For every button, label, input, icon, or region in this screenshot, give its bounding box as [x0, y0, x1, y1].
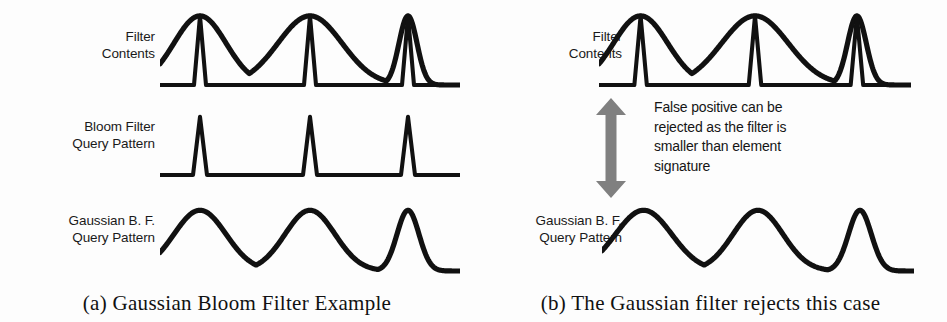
plot-filter-contents-b — [599, 8, 911, 90]
row-label-bloom-query-a: Bloom Filter Query Pattern — [20, 118, 155, 152]
figure-gaussian-bloom-filter: Filter Contents Bloom Filter Query Patte… — [0, 0, 947, 322]
panel-a: Filter Contents Bloom Filter Query Patte… — [0, 0, 474, 322]
annotation-false-positive-rejected: False positive can be rejected as the fi… — [654, 98, 884, 176]
plot-filter-contents-a — [160, 8, 460, 90]
row-label-gaussian-query-a: Gaussian B. F. Query Pattern — [20, 212, 155, 246]
plot-gaussian-query-pattern-b — [602, 200, 914, 276]
double-headed-vertical-arrow-icon — [594, 98, 628, 202]
plot-bloom-query-pattern-a — [160, 108, 460, 180]
plot-gaussian-query-pattern-a — [160, 200, 460, 276]
row-label-filter-contents-a: Filter Contents — [20, 28, 155, 62]
caption-panel-b: (b) The Gaussian filter rejects this cas… — [474, 291, 947, 316]
panel-b: Filter Contents False positive can be re… — [474, 0, 947, 322]
caption-panel-a: (a) Gaussian Bloom Filter Example — [0, 291, 474, 316]
